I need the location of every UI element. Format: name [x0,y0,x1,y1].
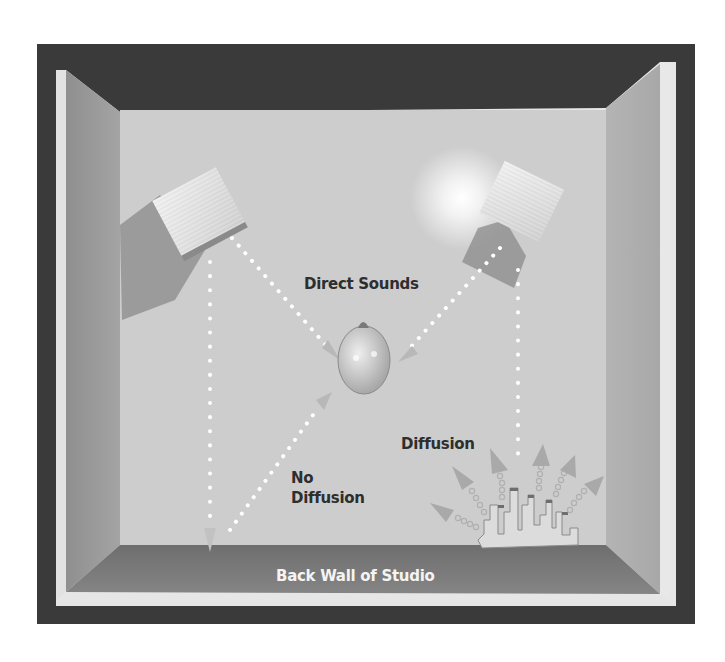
right-wall [606,62,670,600]
studio-diagram: Direct Sounds No Diffusion Diffusion Bac… [0,0,725,662]
ceiling [37,44,676,112]
no-diffusion-label-line1: No [291,468,365,488]
back-wall-label: Back Wall of Studio [276,567,434,585]
direct-sounds-label: Direct Sounds [304,275,419,293]
left-wall [56,70,120,600]
diffusion-label: Diffusion [401,435,475,453]
no-diffusion-label: No Diffusion [291,468,365,508]
no-diffusion-label-line2: Diffusion [291,488,365,508]
